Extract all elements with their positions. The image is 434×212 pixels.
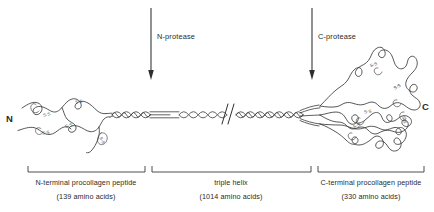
region-count-c-terminal: (330 amino acids)	[342, 192, 401, 201]
helix-unwind-top	[300, 108, 320, 113]
n-helix-junction-lower	[110, 116, 113, 117]
ss-label: S-S	[364, 109, 372, 115]
c-protease-arrow-head	[309, 70, 315, 80]
c-domain-upper	[320, 47, 420, 110]
n-protease-marker: N-protease	[148, 8, 195, 80]
region-label-triple-helix: triple helix	[214, 178, 248, 187]
break-mark-1	[222, 104, 228, 124]
region-label-n-terminal: N-terminal procollagen peptide	[36, 178, 137, 187]
bracket-triple-helix	[152, 166, 311, 172]
helix-strand-c-left	[112, 113, 150, 117]
helix-unwind-bot	[300, 119, 320, 124]
ss-label: S-S	[393, 83, 402, 91]
ss-label: S-S	[42, 130, 50, 136]
n-protease-label: N-protease	[157, 32, 195, 41]
break-mark-2	[228, 104, 234, 124]
region-count-n-terminal: (139 amino acids)	[57, 192, 116, 201]
c-domain-lower	[320, 124, 406, 151]
c-protease-label: C-protease	[318, 32, 356, 41]
ss-label: S-S	[369, 61, 378, 68]
triple-helix-group	[112, 104, 320, 126]
region-label-c-terminal: C-terminal procollagen peptide	[321, 178, 422, 187]
ss-label: S-S	[64, 122, 72, 129]
c-protease-marker: C-protease	[309, 8, 356, 80]
n-protease-arrow-head	[148, 70, 154, 80]
ss-label: S-S	[352, 122, 361, 129]
bracket-n-terminal	[28, 166, 145, 172]
bracket-c-terminal	[318, 166, 424, 172]
region-count-triple-helix: (1014 amino acids)	[200, 192, 263, 201]
region-labels: N-terminal procollagen peptide (139 amin…	[36, 178, 422, 201]
n-chain-mid	[62, 108, 110, 133]
region-brackets	[28, 166, 424, 172]
ss-label: S-S	[43, 111, 51, 117]
c-terminus-label: C	[422, 101, 429, 112]
n-terminus-label: N	[6, 113, 13, 124]
ss-label: S-S	[75, 98, 83, 104]
c-loop-1	[374, 68, 382, 75]
procollagen-diagram: N C N-protease C-protease S-S S-S S-S S-…	[0, 0, 434, 212]
